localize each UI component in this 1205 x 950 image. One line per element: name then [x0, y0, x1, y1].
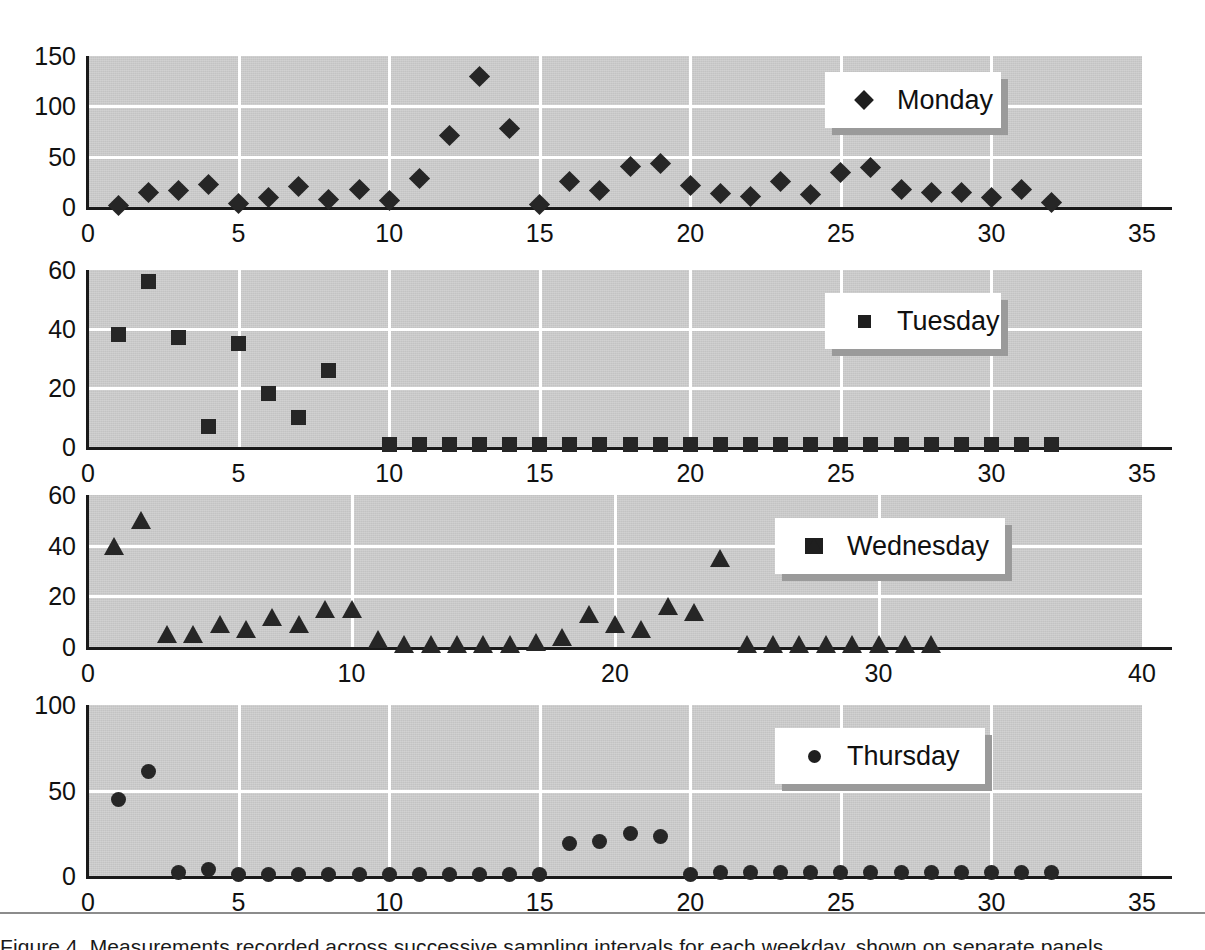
triangle-marker-icon [895, 635, 915, 653]
legend-monday: Monday [825, 72, 1001, 128]
triangle-marker-icon [289, 615, 309, 633]
circle-marker-icon [171, 865, 186, 880]
legend-marker-glyph [854, 90, 874, 110]
triangle-marker-icon [579, 605, 599, 623]
x-axis-tick-label: 0 [58, 221, 118, 246]
square-marker-icon [713, 437, 728, 452]
x-axis-line [86, 207, 1172, 210]
circle-marker-icon [291, 867, 306, 882]
triangle-marker-icon [605, 615, 625, 633]
triangle-marker-icon [552, 628, 572, 646]
y-axis-tick-label: 50 [14, 145, 76, 170]
x-axis-tick-label: 40 [1112, 661, 1172, 686]
y-axis-tick-label: 40 [14, 317, 76, 342]
square-marker-icon [803, 437, 818, 452]
square-marker-icon [773, 437, 788, 452]
triangle-marker-icon [236, 620, 256, 638]
circle-marker-icon [201, 862, 216, 877]
square-marker-icon [261, 386, 276, 401]
chart-panel-wednesday: 0204060010203040Wednesday [0, 480, 1205, 695]
figure-caption: Figure 4. Measurements recorded across s… [0, 933, 1205, 950]
gridline-horizontal [88, 790, 1142, 793]
legend-label: Thursday [847, 743, 960, 770]
square-marker-icon [924, 437, 939, 452]
circle-marker-icon [954, 865, 969, 880]
triangle-marker-icon [684, 603, 704, 621]
triangle-legend-icon [803, 535, 825, 557]
gridline-vertical [238, 56, 241, 207]
triangle-marker-icon [526, 633, 546, 651]
circle-legend-icon [803, 745, 825, 767]
gridline-vertical [689, 705, 692, 876]
circle-marker-icon [532, 867, 547, 882]
square-marker-icon [623, 437, 638, 452]
circle-marker-icon [111, 792, 126, 807]
triangle-marker-icon [842, 635, 862, 653]
triangle-marker-icon [394, 635, 414, 653]
circle-marker-icon [231, 867, 246, 882]
circle-marker-icon [713, 865, 728, 880]
square-marker-icon [502, 437, 517, 452]
square-marker-icon [472, 437, 487, 452]
y-axis-tick-label: 40 [14, 534, 76, 559]
gridline-vertical [689, 270, 692, 447]
y-axis-line [86, 56, 89, 209]
circle-marker-icon [924, 865, 939, 880]
y-axis-line [86, 705, 89, 878]
y-axis-tick-label: 100 [14, 693, 76, 718]
circle-marker-icon [352, 867, 367, 882]
square-marker-icon [833, 437, 848, 452]
triangle-marker-icon [816, 635, 836, 653]
triangle-marker-icon [763, 635, 783, 653]
x-axis-line [86, 647, 1172, 650]
square-marker-icon [1014, 437, 1029, 452]
circle-marker-icon [623, 826, 638, 841]
y-axis-tick-label: 20 [14, 376, 76, 401]
gridline-vertical [388, 270, 391, 447]
x-axis-tick-label: 10 [359, 221, 419, 246]
square-marker-icon [231, 336, 246, 351]
triangle-marker-icon [789, 635, 809, 653]
triangle-marker-icon [500, 635, 520, 653]
x-axis-tick-label: 20 [660, 221, 720, 246]
x-axis-tick-label: 5 [209, 221, 269, 246]
gridline-vertical [388, 56, 391, 207]
y-axis-tick-label: 0 [14, 635, 76, 660]
square-marker-icon [683, 437, 698, 452]
chart-panel-monday: 05010015005101520253035Monday [0, 30, 1205, 255]
square-marker-icon [1044, 437, 1059, 452]
triangle-marker-icon [183, 625, 203, 643]
square-marker-icon [984, 437, 999, 452]
square-marker-icon [743, 437, 758, 452]
square-marker-icon [532, 437, 547, 452]
circle-marker-icon [141, 764, 156, 779]
y-axis-tick-label: 0 [14, 195, 76, 220]
triangle-marker-icon [631, 620, 651, 638]
square-marker-icon [291, 410, 306, 425]
square-marker-icon [201, 419, 216, 434]
gridline-horizontal [88, 156, 1142, 159]
gridline-vertical [539, 56, 542, 207]
circle-marker-icon [442, 867, 457, 882]
triangle-marker-icon [421, 635, 441, 653]
scatter-panel-figure: 05010015005101520253035Monday02040600510… [0, 0, 1205, 950]
chart-panel-thursday: 05010005101520253035Thursday [0, 690, 1205, 924]
square-marker-icon [171, 330, 186, 345]
gridline-horizontal [88, 387, 1142, 390]
triangle-marker-icon [658, 597, 678, 615]
circle-marker-icon [683, 867, 698, 882]
y-axis-tick-label: 60 [14, 483, 76, 508]
square-marker-icon [412, 437, 427, 452]
triangle-marker-icon [737, 635, 757, 653]
triangle-marker-icon [315, 600, 335, 618]
y-axis-tick-label: 100 [14, 94, 76, 119]
x-axis-tick-label: 15 [510, 221, 570, 246]
legend-thursday: Thursday [775, 728, 985, 784]
square-legend-icon [853, 310, 875, 332]
footer-divider [0, 912, 1205, 914]
square-marker-icon [863, 437, 878, 452]
triangle-marker-icon [921, 635, 941, 653]
triangle-marker-icon [210, 615, 230, 633]
legend-label: Wednesday [847, 533, 989, 560]
gridline-vertical [238, 270, 241, 447]
